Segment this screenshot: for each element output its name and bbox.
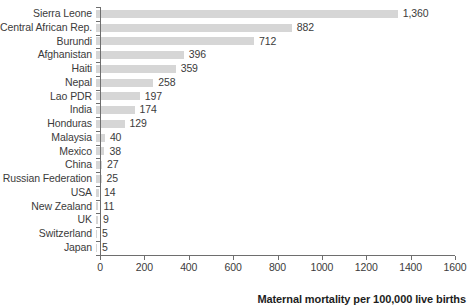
bar-zone: 25 bbox=[96, 172, 474, 186]
bar-value-label: 396 bbox=[184, 48, 206, 62]
bar-zone: 258 bbox=[96, 76, 474, 90]
category-label: India bbox=[0, 103, 96, 117]
bar bbox=[96, 79, 153, 87]
bar-row: Burundi712 bbox=[0, 35, 474, 49]
bar-row: Haiti359 bbox=[0, 62, 474, 76]
bar-row: China27 bbox=[0, 158, 474, 172]
bar-zone: 27 bbox=[96, 158, 474, 172]
category-label: Russian Federation bbox=[0, 172, 96, 186]
x-axis-tick bbox=[233, 256, 234, 260]
x-axis-tick-label: 1400 bbox=[399, 261, 422, 273]
bar-zone: 712 bbox=[96, 35, 474, 49]
bar-row: UK9 bbox=[0, 213, 474, 227]
category-label: Burundi bbox=[0, 35, 96, 49]
category-label: China bbox=[0, 158, 96, 172]
x-axis-tick bbox=[144, 256, 145, 260]
x-axis-tick-label: 1000 bbox=[310, 261, 333, 273]
category-label: Mexico bbox=[0, 145, 96, 159]
y-axis-tick bbox=[96, 7, 100, 8]
y-axis-tick bbox=[96, 255, 100, 256]
bar bbox=[96, 106, 135, 114]
bar bbox=[96, 65, 176, 73]
category-label: Honduras bbox=[0, 117, 96, 131]
y-axis-tick bbox=[96, 213, 100, 214]
x-axis-tick bbox=[366, 256, 367, 260]
bar-value-label: 5 bbox=[97, 227, 108, 241]
bar-zone: 14 bbox=[96, 186, 474, 200]
y-axis-tick bbox=[96, 90, 100, 91]
x-axis-tick-label: 600 bbox=[225, 261, 242, 273]
bar-value-label: 712 bbox=[254, 35, 276, 49]
bar-row: Malaysia40 bbox=[0, 131, 474, 145]
bar-value-label: 5 bbox=[97, 241, 108, 255]
bar-zone: 5 bbox=[96, 241, 474, 255]
y-axis-tick bbox=[96, 48, 100, 49]
bar-value-label: 14 bbox=[99, 186, 115, 200]
bar-rows: Sierra Leone1,360Central African Rep.882… bbox=[0, 7, 474, 255]
y-axis-tick bbox=[96, 117, 100, 118]
bar-value-label: 1,360 bbox=[398, 7, 429, 21]
x-axis-tick-label: 400 bbox=[180, 261, 197, 273]
bar-zone: 882 bbox=[96, 21, 474, 35]
x-axis-tick bbox=[411, 256, 412, 260]
bar-value-label: 25 bbox=[102, 172, 118, 186]
category-label: Haiti bbox=[0, 62, 96, 76]
bar-zone: 9 bbox=[96, 213, 474, 227]
bar-value-label: 359 bbox=[176, 62, 198, 76]
y-axis-tick bbox=[96, 172, 100, 173]
y-axis-line bbox=[100, 7, 101, 255]
bar-zone: 11 bbox=[96, 200, 474, 214]
bar-row: USA14 bbox=[0, 186, 474, 200]
bar-zone: 396 bbox=[96, 48, 474, 62]
bar-row: Russian Federation25 bbox=[0, 172, 474, 186]
bar-zone: 38 bbox=[96, 145, 474, 159]
bar-value-label: 129 bbox=[125, 117, 147, 131]
category-label: Lao PDR bbox=[0, 90, 96, 104]
bar-value-label: 27 bbox=[102, 158, 118, 172]
maternal-mortality-bar-chart: Sierra Leone1,360Central African Rep.882… bbox=[0, 0, 474, 308]
x-axis-tick-label: 200 bbox=[136, 261, 153, 273]
category-label: Nepal bbox=[0, 76, 96, 90]
bar-row: Afghanistan396 bbox=[0, 48, 474, 62]
y-axis-tick bbox=[96, 131, 100, 132]
category-label: Switzerland bbox=[0, 227, 96, 241]
bar-zone: 197 bbox=[96, 90, 474, 104]
bar-row: Japan5 bbox=[0, 241, 474, 255]
y-axis-tick bbox=[96, 158, 100, 159]
bar-row: Honduras129 bbox=[0, 117, 474, 131]
y-axis-tick bbox=[96, 200, 100, 201]
bar bbox=[96, 92, 140, 100]
bar-row: Mexico38 bbox=[0, 145, 474, 159]
bar-value-label: 174 bbox=[135, 103, 157, 117]
category-label: Afghanistan bbox=[0, 48, 96, 62]
bar-row: Sierra Leone1,360 bbox=[0, 7, 474, 21]
bar bbox=[96, 10, 398, 18]
x-axis-tick bbox=[100, 256, 101, 260]
x-axis-tick-label: 800 bbox=[269, 261, 286, 273]
category-label: USA bbox=[0, 186, 96, 200]
bar-zone: 129 bbox=[96, 117, 474, 131]
y-axis-tick bbox=[96, 227, 100, 228]
bar bbox=[96, 24, 292, 32]
x-axis-tick bbox=[278, 256, 279, 260]
y-axis-tick bbox=[96, 145, 100, 146]
bar-row: New Zealand11 bbox=[0, 200, 474, 214]
category-label: New Zealand bbox=[0, 200, 96, 214]
bar-value-label: 882 bbox=[292, 21, 314, 35]
bar bbox=[96, 37, 254, 45]
x-axis-tick-label: 1200 bbox=[355, 261, 378, 273]
bar-zone: 5 bbox=[96, 227, 474, 241]
y-axis-tick bbox=[96, 35, 100, 36]
y-axis-tick bbox=[96, 62, 100, 63]
category-label: Japan bbox=[0, 241, 96, 255]
x-axis-tick bbox=[455, 256, 456, 260]
bar-value-label: 40 bbox=[105, 131, 121, 145]
y-axis-tick bbox=[96, 103, 100, 104]
category-label: Sierra Leone bbox=[0, 7, 96, 21]
x-axis-tick bbox=[189, 256, 190, 260]
bar-zone: 1,360 bbox=[96, 7, 474, 21]
bar bbox=[96, 51, 184, 59]
bar-row: Central African Rep.882 bbox=[0, 21, 474, 35]
y-axis-tick bbox=[96, 76, 100, 77]
x-axis-title: Maternal mortality per 100,000 live birt… bbox=[257, 293, 466, 305]
